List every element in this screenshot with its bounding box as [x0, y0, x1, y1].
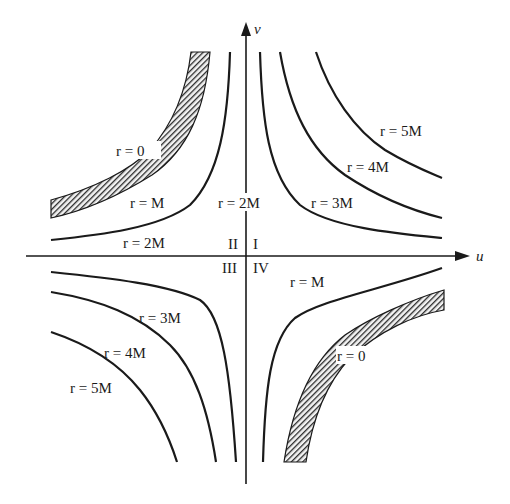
u-axis-label: u [476, 248, 484, 264]
label-r5M-upper: r = 5M [380, 123, 422, 139]
quadrant-label-I: I [253, 236, 258, 252]
r0-singularity-upper [51, 52, 210, 218]
label-rM-lower: r = M [290, 274, 324, 290]
r4M-curve-lower [51, 292, 216, 462]
label-r3M-upper: r = 3M [311, 195, 353, 211]
v-axis-arrow-icon [241, 22, 251, 36]
kruskal-diagram: u v r = 0 r = M r = 2M r = 2M r = 3M r =… [0, 0, 510, 504]
quadrant-label-II: II [228, 236, 238, 252]
r3M-curve-lower [51, 272, 236, 462]
quadrant-label-III: III [222, 260, 237, 276]
label-rM-upper: r = M [130, 195, 164, 211]
r0-singularity-lower [284, 290, 444, 462]
label-r4M-upper: r = 4M [347, 159, 389, 175]
label-r4M-lower: r = 4M [104, 345, 146, 361]
label-r2M-left: r = 2M [123, 235, 165, 251]
label-r3M-lower: r = 3M [139, 310, 181, 326]
u-axis-arrow-icon [455, 251, 470, 261]
label-r5M-lower: r = 5M [70, 380, 112, 396]
label-r0-lower: r = 0 [337, 348, 365, 364]
label-r2M-top: r = 2M [218, 195, 260, 211]
quadrant-label-IV: IV [253, 260, 269, 276]
label-r0-upper: r = 0 [116, 143, 144, 159]
v-axis-label: v [254, 21, 261, 37]
